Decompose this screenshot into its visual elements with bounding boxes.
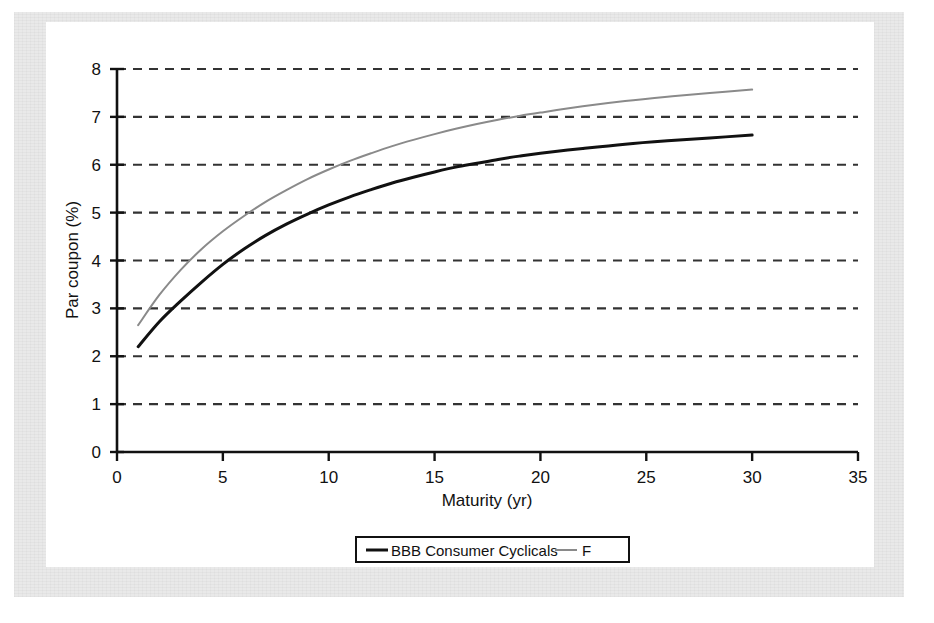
y-tick-label-7: 7: [92, 108, 101, 127]
y-tick-label-6: 6: [92, 156, 101, 175]
x-tick-label-0: 0: [112, 468, 121, 487]
y-tick-label-1: 1: [92, 395, 101, 414]
x-tick-label-30: 30: [743, 468, 762, 487]
series-line-f: [138, 90, 752, 326]
figure-root: 01234567805101520253035 Par coupon (%) M…: [0, 0, 934, 623]
x-tick-label-5: 5: [218, 468, 227, 487]
y-tick-label-3: 3: [92, 299, 101, 318]
x-axis-label: Maturity (yr): [442, 491, 533, 510]
x-tick-label-20: 20: [531, 468, 550, 487]
y-tick-label-5: 5: [92, 204, 101, 223]
x-tick-label-15: 15: [425, 468, 444, 487]
chart-legend: BBB Consumer Cyclicals F: [356, 537, 629, 562]
x-tick-label-10: 10: [319, 468, 338, 487]
y-tick-label-8: 8: [92, 60, 101, 79]
y-axis-label: Par coupon (%): [63, 201, 82, 319]
y-tick-label-4: 4: [92, 252, 101, 271]
legend-label-bbb-consumer-cyclicals: BBB Consumer Cyclicals: [391, 542, 558, 559]
gridlines-group: [117, 69, 858, 404]
x-tick-label-25: 25: [637, 468, 656, 487]
x-tick-label-35: 35: [849, 468, 868, 487]
legend-label-f: F: [582, 542, 591, 559]
series-line-bbb-consumer-cyclicals: [138, 135, 752, 347]
chart-canvas: 01234567805101520253035 Par coupon (%) M…: [0, 0, 934, 623]
y-tick-label-2: 2: [92, 347, 101, 366]
y-tick-label-0: 0: [92, 443, 101, 462]
